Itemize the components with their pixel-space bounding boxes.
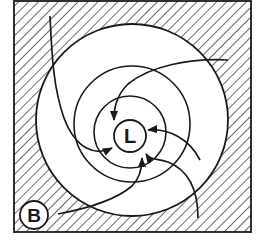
source-node-B: B — [20, 201, 48, 229]
spiral-flow-diagram: L B — [0, 0, 256, 244]
center-node-L: L — [114, 120, 146, 152]
center-node-label: L — [124, 125, 136, 147]
source-node-label: B — [27, 205, 41, 226]
